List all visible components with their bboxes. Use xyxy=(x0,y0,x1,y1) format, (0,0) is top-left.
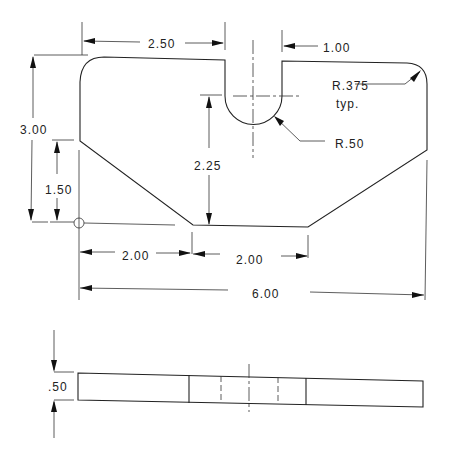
dimension-0-50: .50 xyxy=(48,330,74,438)
slot-centerlines xyxy=(233,40,300,158)
dimension-6-00: 6.00 xyxy=(80,285,424,301)
dim-label-6-00: 6.00 xyxy=(252,287,279,301)
dim-label-r-50: R.50 xyxy=(335,137,364,151)
front-view-outline xyxy=(80,57,427,227)
dimension-1-00: 1.00 xyxy=(282,30,350,55)
dimension-2-50: 2.50 xyxy=(82,22,225,55)
dim-label-2-50: 2.50 xyxy=(148,37,175,51)
dimension-2-00-left: 2.00 xyxy=(80,249,191,263)
drawing-canvas: 2.50 1.00 R.375 typ. R.50 3.00 xyxy=(0,0,452,457)
dimension-1-50: 1.50 xyxy=(45,140,74,222)
dimension-r-375: R.375 typ. xyxy=(332,70,421,111)
dim-label-2-00-left: 2.00 xyxy=(122,249,149,263)
dim-label-0-50: .50 xyxy=(48,380,68,394)
edge-view xyxy=(78,364,423,412)
dim-label-1-50: 1.50 xyxy=(45,183,72,197)
dimension-2-00-right: 2.00 xyxy=(193,251,308,267)
dimension-2-25: 2.25 xyxy=(194,95,222,225)
dim-label-typ: typ. xyxy=(336,97,359,111)
dimension-r-50: R.50 xyxy=(274,116,364,151)
dim-label-1-00: 1.00 xyxy=(323,41,350,55)
dim-label-2-25: 2.25 xyxy=(194,159,221,173)
dim-label-r-375: R.375 xyxy=(332,79,369,93)
technical-drawing: 2.50 1.00 R.375 typ. R.50 3.00 xyxy=(0,0,452,457)
dim-label-3-00: 3.00 xyxy=(20,123,47,137)
dim-label-2-00-right: 2.00 xyxy=(236,253,263,267)
